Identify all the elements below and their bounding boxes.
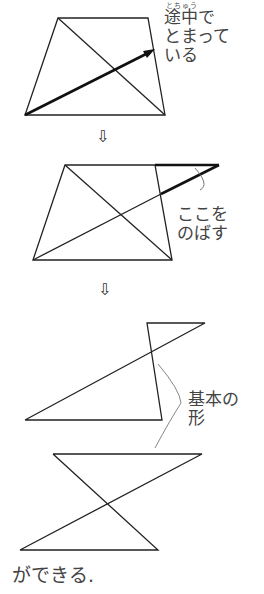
- label-step3: 基本の 形: [188, 390, 239, 428]
- label-line: いる: [164, 45, 198, 65]
- trapezoid-step1: [25, 18, 165, 115]
- diagram-canvas: [0, 0, 264, 594]
- caption: ができる.: [12, 566, 94, 585]
- label-line: とまって: [164, 26, 230, 46]
- extension-step2: [155, 165, 219, 194]
- basic-shape-bottom: [20, 454, 202, 550]
- down-arrow-icon: ⇩: [98, 280, 111, 299]
- trapezoid-step2: [33, 165, 172, 260]
- basic-shape-top: [25, 323, 205, 420]
- label-line: のばす: [177, 223, 228, 243]
- label-line: 形: [188, 408, 205, 428]
- label-line: 途中で: [164, 7, 215, 27]
- brace-bracket: [155, 364, 181, 448]
- label-step2: ここを のばす: [177, 205, 228, 243]
- angle-bracket: [195, 168, 204, 190]
- down-arrow-icon: ⇩: [96, 127, 109, 146]
- label-line: 基本の: [188, 389, 239, 409]
- label-step1: 途中で とまって いる: [164, 8, 230, 65]
- label-line: ここを: [177, 204, 228, 224]
